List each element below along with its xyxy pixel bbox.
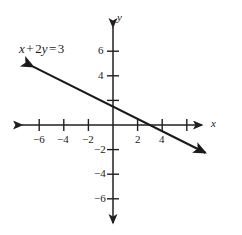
y-axis-label: y xyxy=(117,12,122,23)
y-tick-label--4: −4 xyxy=(94,168,106,179)
equation-label: x+2y=3 xyxy=(19,42,64,55)
equation-rhs: 3 xyxy=(58,41,65,56)
y-tick-label--6: −6 xyxy=(94,193,106,204)
x-axis-label: x xyxy=(211,118,216,129)
x-tick-label-2: 2 xyxy=(135,134,141,145)
y-tick-label--2: −2 xyxy=(94,144,106,155)
x-tick-label-4: 4 xyxy=(159,134,165,145)
x-axis xyxy=(22,119,202,131)
equation-var-x: x xyxy=(19,41,25,56)
equation-plus-sign: + xyxy=(25,41,35,56)
coordinate-plane xyxy=(0,0,242,235)
y-tick-label-6: 6 xyxy=(98,45,104,56)
x-tick-label--6: −6 xyxy=(33,134,45,145)
y-tick-label-4: 4 xyxy=(98,70,104,81)
x-tick-label--4: −4 xyxy=(57,134,69,145)
x-tick-label--2: −2 xyxy=(82,134,94,145)
graph-figure: −6 −4 −2 2 4 6 4 −2 −4 −6 y x x+2y=3 xyxy=(0,0,242,235)
equation-equals-sign: = xyxy=(47,41,57,56)
